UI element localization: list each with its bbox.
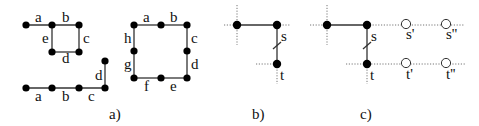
- edge-label: d: [191, 56, 199, 72]
- node: [75, 48, 82, 55]
- edge-label: b: [62, 9, 70, 25]
- panel-c: s t s' s'' t' t'': [310, 5, 465, 84]
- edge-label: h: [124, 30, 132, 46]
- node: [22, 84, 29, 91]
- panel-caption-b: b): [252, 106, 265, 123]
- panel-caption-c: c): [360, 106, 372, 123]
- node-label-t-double-prime: t'': [446, 66, 456, 82]
- figure: a b c d e a b c d a b c d e f g h: [0, 0, 479, 126]
- edge-label: b: [170, 9, 178, 25]
- node-s: [273, 21, 281, 29]
- node: [157, 21, 164, 28]
- edge-label: f: [144, 78, 149, 94]
- edge-label: d: [62, 50, 70, 66]
- edge-label: c: [191, 30, 198, 46]
- node: [183, 47, 190, 54]
- node: [233, 21, 241, 29]
- edge-label: a: [35, 88, 42, 104]
- node: [323, 21, 331, 29]
- node-label-s-prime: s': [406, 26, 415, 42]
- edge-label: d: [95, 67, 103, 83]
- node: [48, 84, 55, 91]
- edge-label: a: [35, 9, 42, 25]
- node: [48, 48, 55, 55]
- node: [75, 21, 82, 28]
- node-label-s-double-prime: s'': [446, 26, 458, 42]
- node: [130, 21, 137, 28]
- edge-label: a: [143, 9, 150, 25]
- panel-b: s t: [224, 5, 290, 84]
- node: [22, 21, 29, 28]
- node-s: [363, 21, 371, 29]
- node-label-t: t: [280, 67, 285, 83]
- node-label-s: s: [371, 28, 377, 44]
- node: [183, 74, 190, 81]
- edge-label: c: [83, 30, 90, 46]
- panel-a-square-graph: a b c d e: [22, 9, 90, 66]
- edge-label: e: [42, 30, 49, 46]
- panel-a-ring-graph: a b c d e f g h: [124, 9, 199, 94]
- ring-edges: [134, 25, 187, 78]
- node-label-t-prime: t': [406, 66, 413, 82]
- node: [130, 74, 137, 81]
- node: [101, 57, 108, 64]
- edge-label: g: [124, 56, 132, 72]
- node: [130, 47, 137, 54]
- edge-label: b: [62, 88, 70, 104]
- node: [101, 84, 108, 91]
- edge-label: c: [88, 88, 95, 104]
- node-label-s: s: [281, 28, 287, 44]
- node: [48, 21, 55, 28]
- node: [157, 74, 164, 81]
- node: [183, 21, 190, 28]
- edge-label: e: [170, 78, 177, 94]
- panel-caption-a: a): [109, 106, 121, 123]
- node: [75, 84, 82, 91]
- node-label-t: t: [370, 67, 375, 83]
